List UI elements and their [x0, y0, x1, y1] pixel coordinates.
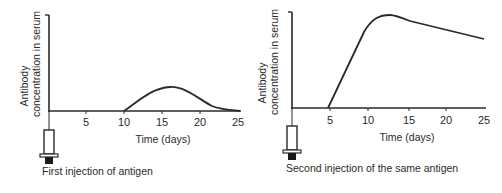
svg-text:15: 15	[403, 114, 415, 126]
svg-text:concentration in serum: concentration in serum	[30, 11, 42, 117]
x-axis-label: Time (days)	[135, 133, 190, 145]
svg-text:20: 20	[440, 114, 452, 126]
svg-text:25: 25	[478, 114, 490, 126]
primary-caption: First injection of antigen	[42, 165, 153, 177]
svg-text:concentration in serum: concentration in serum	[268, 9, 280, 115]
svg-text:Antibody: Antibody	[18, 65, 30, 107]
svg-text:20: 20	[194, 116, 206, 128]
y-axis-label: Antibody concentration in serum	[256, 9, 280, 115]
primary-response-chart: Antibody concentration in serum 5 10 15 …	[0, 0, 250, 193]
svg-text:25: 25	[232, 116, 244, 128]
secondary-response-curve	[328, 15, 484, 108]
svg-text:15: 15	[156, 116, 168, 128]
y-axis-label: Antibody concentration in serum	[18, 11, 42, 117]
x-axis-label: Time (days)	[379, 131, 434, 143]
syringe-icon	[40, 112, 58, 164]
syringe-icon	[283, 109, 301, 160]
svg-text:Antibody: Antibody	[256, 62, 268, 104]
secondary-response-chart: Antibody concentration in serum 5 10 15 …	[250, 0, 502, 193]
svg-text:5: 5	[83, 116, 89, 128]
x-axis-ticks: 5 10 15 20 25	[83, 111, 244, 128]
primary-response-curve	[124, 87, 240, 111]
x-axis-ticks: 5 10 15 20 25	[327, 108, 490, 126]
svg-text:5: 5	[327, 114, 333, 126]
svg-text:10: 10	[118, 116, 130, 128]
secondary-caption: Second injection of the same antigen	[286, 162, 458, 174]
svg-text:10: 10	[362, 114, 374, 126]
